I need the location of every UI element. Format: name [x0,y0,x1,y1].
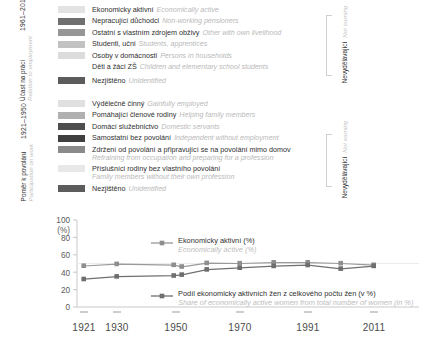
bracket-label-en: Not earning [342,6,349,38]
legend-swatch [58,185,85,192]
list-item[interactable]: Studenti, učniStudents, apprentices [58,39,433,51]
side-label-occupation-cz: Poměr k povolání [20,151,27,201]
series-active-women-share [81,263,376,282]
legend-swatch [58,64,85,71]
legend-swatch [58,29,85,36]
legend-block-occupation: Poměr k povolání Participation on work 1… [0,98,433,206]
chart-legend-active-women-share: Podíl ekonomicky aktivních žen z celkové… [178,289,413,308]
bracket-label-not-earning: Nevydělávající Not earning [334,15,356,74]
list-item[interactable]: Zdržení od povolání a připravující se na… [58,144,433,163]
side-label-employment: Účast na práci Relation to employment 19… [0,4,54,92]
y-tick-label: 40 [61,269,71,278]
legend-label-cz: Nezjištěno [92,76,126,85]
legend-label-cz: Zdržení od povolání a připravující se na… [92,145,291,154]
list-item[interactable]: Pomáhající členové rodinyHelping family … [58,110,433,122]
side-label-occupation-years: 1921–1950 [20,103,28,139]
x-tick-label: 1991 [296,322,320,333]
y-tick-label: 0 [65,303,70,312]
legend-swatch [58,6,85,13]
list-item[interactable]: Ostatní s vlastním zdrojem obživyOther w… [58,27,433,39]
legend-label-en: Helping family members [179,111,255,119]
legend-label-cz: Ostatní s vlastním zdrojem obživy [92,28,199,37]
legend-label-en: Gainfully employed [147,100,207,108]
x-tick-label: 2011 [363,322,386,333]
legend-label-cz: Domácí služebnictvo [92,122,158,131]
legend-swatch [58,112,85,119]
legend-label-cz: Nepracující důchodci [92,16,159,25]
list-item[interactable]: Osoby v domácnostiPersons in households [58,50,433,62]
side-label-occupation: Poměr k povolání Participation on work 1… [0,98,54,206]
y-tick-label: 80 [61,234,71,243]
list-item[interactable]: Nepracující důchodciNon-working pensione… [58,16,433,28]
side-label-occupation-en: Participation on work [27,144,34,201]
chart-y-tick-labels: 100 (%) 80 60 40 20 0 [56,216,70,312]
legend-label-en: Other with own livelihood [202,29,281,37]
legend-label-en: Economically active [157,6,219,14]
list-item[interactable]: Výdělečně činnýGainfully employed [58,98,433,110]
legend-label-en: Children and elementary school students [140,63,269,71]
bracket-not-earning [326,15,332,76]
list-item[interactable]: Příslušníci rodiny bez vlastního povolán… [58,163,433,182]
chart-legend-cz: Ekonomicky aktivní (%) [178,236,256,245]
bracket-label-en: Not earning [342,121,349,153]
legend-swatch [58,135,85,142]
legend-label-en: Domestic servants [161,123,219,131]
line-chart: 100 (%) 80 60 40 20 0 1921 1930 1950 197… [0,206,433,338]
x-tick-label: 1950 [164,322,188,333]
side-label-employment-en: Relation to employment [27,36,34,101]
legend-label-cz: Příslušníci rodiny bez vlastního povolán… [92,164,220,173]
legend-label-cz: Děti a žáci ZŠ [92,62,137,71]
legend-swatch [58,41,85,48]
chart-legend-economically-active: Ekonomicky aktivní (%) Economically acti… [178,236,256,255]
legend-label-en: Unidentified [129,185,166,193]
legend-swatch [58,165,85,172]
x-tick-label: 1970 [228,322,252,333]
list-item[interactable]: Ekonomicky aktivníEconomically active [58,4,433,16]
legend-label-en: Independent without employment [174,134,279,142]
list-item[interactable]: Děti a žáci ZŠChildren and elementary sc… [58,62,433,74]
legend-swatch [58,18,85,25]
x-tick-label: 1930 [105,322,129,333]
chart-legend-cz: Podíl ekonomicky aktivních žen z celkové… [178,289,413,298]
chart-x-tick-labels: 1921 1930 1950 1970 1991 2011 [72,322,385,333]
y-tick-label: 100 [56,216,70,225]
legend-swatch [58,77,85,84]
bracket-label-cz: Nevydělávající [342,42,349,84]
legend-block-employment: Účast na práci Relation to employment 19… [0,4,433,92]
bracket-label-cz: Nevydělávající [342,157,349,199]
legend-label-en: Refraining from occupation and preparing… [92,154,291,164]
legend-swatch [58,146,85,153]
legend-rows-occupation: Výdělečně činnýGainfully employed Pomáha… [58,98,433,195]
legend-marker-economically-active [151,241,173,246]
bracket-label-not-earning: Nevydělávající Not earning [334,134,356,185]
chart-legend-en: Economically active (%) [178,245,256,254]
chart-legend-en: Share of economically active women from … [178,298,413,307]
list-item[interactable]: Domácí služebnictvoDomestic servants [58,121,433,133]
legend-label-en: Students, apprentices [139,40,208,48]
legend-label-en: Unidentified [129,77,166,85]
bracket-not-earning [326,134,332,187]
series-markers [81,263,376,282]
legend-label-cz: Ekonomicky aktivní [92,5,154,14]
legend-label-cz: Nezjištěno [92,184,126,193]
legend-label-en: Persons in households [160,52,232,60]
legend-rows-employment: Ekonomicky aktivníEconomically active Ne… [58,4,433,87]
legend-label-en: Family members without their own profess… [92,173,234,183]
chart-svg: 100 (%) 80 60 40 20 0 1921 1930 1950 197… [0,206,433,338]
legend-label-cz: Výdělečně činný [92,99,144,108]
list-item[interactable]: NezjištěnoUnidentified [58,183,433,195]
legend-swatch [58,100,85,107]
list-item[interactable]: NezjištěnoUnidentified [58,75,433,87]
legend-label-en: Non-working pensioners [162,17,239,25]
legend-marker-active-women-share [151,294,173,299]
legend-swatch [58,123,85,130]
legend-label-cz: Osoby v domácnosti [92,51,157,60]
legend-label-cz: Studenti, učni [92,39,136,48]
y-tick-label: 60 [61,251,71,260]
y-tick-label: 20 [61,286,71,295]
side-label-employment-years: 1961–2011 [20,0,28,31]
legend-label-cz: Pomáhající členové rodiny [92,110,176,119]
list-item[interactable]: Samostatní bez povoláníIndependent witho… [58,133,433,145]
x-tick-label: 1921 [72,322,96,333]
legend-label-cz: Samostatní bez povolání [92,133,171,142]
